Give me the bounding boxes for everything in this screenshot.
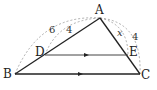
parallel-arrow-DE	[84, 53, 89, 57]
measure-AD: 4	[66, 24, 72, 35]
label-B: B	[3, 67, 12, 81]
label-E: E	[129, 45, 138, 59]
segment-AB	[15, 18, 100, 74]
label-D: D	[35, 45, 45, 59]
measure-AC: 4	[132, 31, 138, 42]
parallel-arrow-BC	[78, 72, 83, 76]
measure-AB: 6	[49, 24, 55, 35]
label-C: C	[141, 68, 150, 82]
triangle-diagram: A B C D E 6 4 x 4	[0, 0, 157, 90]
label-A: A	[94, 3, 104, 17]
measure-AE: x	[117, 27, 123, 38]
